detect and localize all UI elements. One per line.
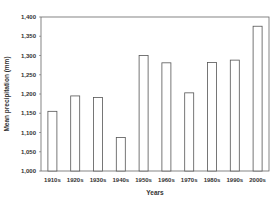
x-tick-label: 1920s bbox=[67, 177, 84, 183]
x-tick-label: 1980s bbox=[204, 177, 221, 183]
x-tick-label: 1970s bbox=[181, 177, 198, 183]
x-tick-label: 2000s bbox=[249, 177, 266, 183]
x-axis-title: Years bbox=[146, 189, 164, 196]
y-tick-label: 1,300 bbox=[21, 53, 37, 59]
bar-1950s bbox=[139, 56, 148, 172]
y-tick-label: 1,400 bbox=[21, 14, 37, 20]
x-tick-label: 1990s bbox=[226, 177, 243, 183]
x-tick-label: 1930s bbox=[90, 177, 107, 183]
bar-1910s bbox=[48, 111, 57, 171]
bar-1940s bbox=[116, 138, 125, 171]
x-tick-label: 1940s bbox=[112, 177, 129, 183]
plot-area bbox=[41, 17, 269, 171]
bar-2000s bbox=[253, 26, 262, 171]
bar-1980s bbox=[208, 62, 217, 171]
y-tick-label: 1,250 bbox=[21, 72, 37, 78]
bar-1920s bbox=[71, 96, 80, 171]
x-tick-label: 1910s bbox=[44, 177, 61, 183]
precipitation-bar-chart: 1,0001,0501,1001,1501,2001,2501,3001,350… bbox=[0, 0, 277, 204]
bar-1960s bbox=[162, 63, 171, 171]
y-axis-title: Mean precipitation (mm) bbox=[3, 56, 11, 131]
bar-1970s bbox=[185, 93, 194, 171]
x-axis: 1910s1920s1930s1940s1950s1960s1970s1980s… bbox=[44, 177, 267, 183]
x-tick-label: 1960s bbox=[158, 177, 175, 183]
bar-1990s bbox=[230, 60, 239, 171]
y-tick-label: 1,200 bbox=[21, 91, 37, 97]
bar-1930s bbox=[94, 97, 103, 171]
y-tick-label: 1,350 bbox=[21, 33, 37, 39]
y-axis: 1,0001,0501,1001,1501,2001,2501,3001,350… bbox=[21, 14, 41, 174]
y-tick-label: 1,050 bbox=[21, 149, 37, 155]
x-tick-label: 1950s bbox=[135, 177, 152, 183]
y-tick-label: 1,150 bbox=[21, 110, 37, 116]
y-tick-label: 1,100 bbox=[21, 130, 37, 136]
y-tick-label: 1,000 bbox=[21, 168, 37, 174]
